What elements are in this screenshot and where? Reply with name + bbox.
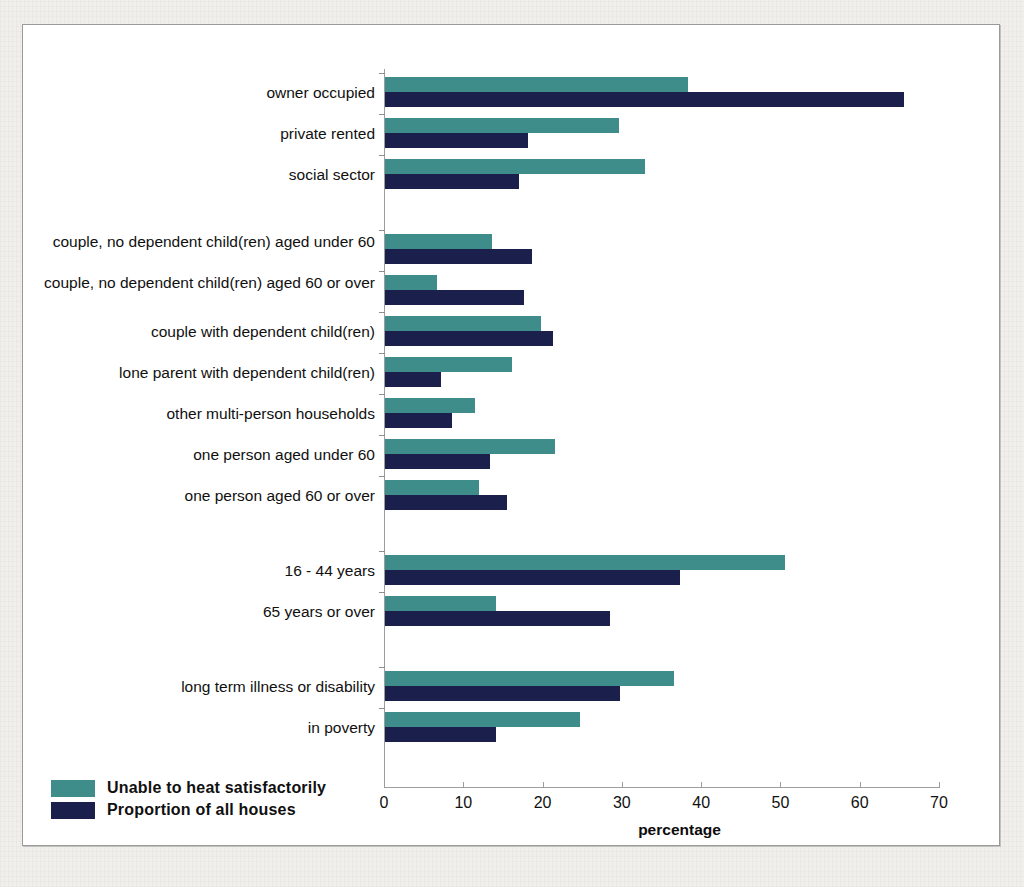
bar-unable-to-heat — [385, 596, 496, 611]
x-axis-tick — [384, 782, 385, 788]
category-axis-tick — [379, 476, 385, 477]
category-axis-tick — [379, 592, 385, 593]
bar-unable-to-heat — [385, 275, 437, 290]
bar-proportion-all-houses — [385, 290, 524, 305]
x-axis-tick — [939, 782, 940, 788]
bar-proportion-all-houses — [385, 454, 490, 469]
legend-swatch-icon — [51, 780, 95, 797]
x-axis-tick-label: 30 — [602, 794, 642, 812]
category-axis-tick — [379, 155, 385, 156]
bar-unable-to-heat — [385, 480, 479, 495]
category-axis-tick — [379, 312, 385, 313]
category-axis-tick — [379, 73, 385, 74]
category-axis-tick — [379, 271, 385, 272]
category-label: couple with dependent child(ren) — [35, 323, 375, 340]
category-label: couple, no dependent child(ren) aged 60 … — [35, 274, 375, 291]
category-label: social sector — [35, 166, 375, 183]
category-axis-tick — [379, 394, 385, 395]
bar-unable-to-heat — [385, 439, 555, 454]
legend-item: Unable to heat satisfactorily — [51, 779, 326, 797]
legend-item: Proportion of all houses — [51, 801, 326, 819]
category-label: in poverty — [35, 719, 375, 736]
x-axis-tick-label: 70 — [919, 794, 959, 812]
category-label: 65 years or over — [35, 603, 375, 620]
category-axis-tick — [379, 708, 385, 709]
bar-unable-to-heat — [385, 118, 619, 133]
bar-proportion-all-houses — [385, 249, 532, 264]
category-label: 16 - 44 years — [35, 562, 375, 579]
bar-unable-to-heat — [385, 357, 512, 372]
bar-proportion-all-houses — [385, 331, 553, 346]
bar-unable-to-heat — [385, 398, 475, 413]
category-axis-tick — [379, 353, 385, 354]
bar-proportion-all-houses — [385, 727, 496, 742]
bar-proportion-all-houses — [385, 413, 452, 428]
category-axis-tick — [379, 551, 385, 552]
x-axis-line — [384, 787, 939, 788]
legend-swatch-icon — [51, 802, 95, 819]
bar-proportion-all-houses — [385, 570, 680, 585]
bar-unable-to-heat — [385, 316, 541, 331]
chart-legend: Unable to heat satisfactorilyProportion … — [51, 779, 326, 823]
bar-unable-to-heat — [385, 234, 492, 249]
category-label: long term illness or disability — [35, 678, 375, 695]
bar-unable-to-heat — [385, 712, 580, 727]
x-axis-tick — [780, 782, 781, 788]
x-axis-tick — [701, 782, 702, 788]
x-axis-tick-label: 50 — [760, 794, 800, 812]
category-label: one person aged 60 or over — [35, 487, 375, 504]
legend-label: Proportion of all houses — [107, 801, 296, 819]
category-axis-tick — [379, 667, 385, 668]
bar-unable-to-heat — [385, 555, 785, 570]
category-label: one person aged under 60 — [35, 446, 375, 463]
bar-proportion-all-houses — [385, 174, 519, 189]
category-label: other multi-person households — [35, 405, 375, 422]
x-axis-tick-label: 60 — [840, 794, 880, 812]
x-axis-tick-label: 0 — [364, 794, 404, 812]
bar-proportion-all-houses — [385, 133, 528, 148]
x-axis-tick-label: 10 — [443, 794, 483, 812]
bar-proportion-all-houses — [385, 92, 904, 107]
category-label: private rented — [35, 125, 375, 142]
bar-unable-to-heat — [385, 77, 688, 92]
x-axis-tick — [860, 782, 861, 788]
chart-panel: 010203040506070percentageowner occupiedp… — [22, 24, 1000, 846]
category-axis-tick — [379, 114, 385, 115]
category-axis-tick — [379, 435, 385, 436]
bar-unable-to-heat — [385, 671, 674, 686]
bar-proportion-all-houses — [385, 495, 507, 510]
bar-unable-to-heat — [385, 159, 645, 174]
plot-area: 010203040506070percentageowner occupiedp… — [23, 25, 1001, 847]
x-axis-tick — [622, 782, 623, 788]
legend-label: Unable to heat satisfactorily — [107, 779, 326, 797]
x-axis-tick — [543, 782, 544, 788]
x-axis-tick-label: 40 — [681, 794, 721, 812]
x-axis-title: percentage — [580, 821, 780, 839]
category-label: owner occupied — [35, 84, 375, 101]
category-label: couple, no dependent child(ren) aged und… — [35, 233, 375, 250]
bar-proportion-all-houses — [385, 611, 610, 626]
category-axis-tick — [379, 230, 385, 231]
x-axis-tick — [463, 782, 464, 788]
category-label: lone parent with dependent child(ren) — [35, 364, 375, 381]
bar-proportion-all-houses — [385, 372, 441, 387]
bar-proportion-all-houses — [385, 686, 620, 701]
x-axis-tick-label: 20 — [523, 794, 563, 812]
